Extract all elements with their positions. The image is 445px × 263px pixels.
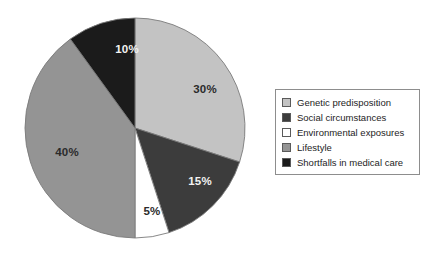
pie-chart-figure: 30%15%5%40%10% Genetic predispositionSoc…: [0, 0, 445, 263]
legend-item[interactable]: Lifestyle: [282, 140, 413, 154]
legend-swatch-icon: [282, 113, 291, 122]
pie-slice-value-label: 10%: [115, 43, 139, 55]
legend-item-label: Shortfalls in medical care: [297, 157, 403, 168]
legend-item[interactable]: Environmental exposures: [282, 125, 413, 139]
chart-legend: Genetic predispositionSocial circumstanc…: [275, 89, 420, 175]
legend-item[interactable]: Social circumstances: [282, 110, 413, 124]
legend-item[interactable]: Shortfalls in medical care: [282, 155, 413, 169]
legend-item-label: Genetic predisposition: [297, 97, 391, 108]
pie-slice-value-label: 30%: [193, 83, 217, 95]
legend-swatch-icon: [282, 128, 291, 137]
pie-chart-svg: 30%15%5%40%10%: [0, 0, 270, 263]
legend-item-label: Social circumstances: [297, 112, 386, 123]
pie-chart-plot-area: 30%15%5%40%10%: [0, 0, 270, 263]
legend-item[interactable]: Genetic predisposition: [282, 95, 413, 109]
pie-slice-value-label: 5%: [143, 205, 160, 217]
legend-swatch-icon: [282, 143, 291, 152]
legend-swatch-icon: [282, 158, 291, 167]
pie-slice-value-label: 40%: [55, 146, 79, 158]
legend-swatch-icon: [282, 98, 291, 107]
legend-item-label: Lifestyle: [297, 142, 332, 153]
pie-slice-value-label: 15%: [188, 175, 212, 187]
legend-item-label: Environmental exposures: [297, 127, 404, 138]
